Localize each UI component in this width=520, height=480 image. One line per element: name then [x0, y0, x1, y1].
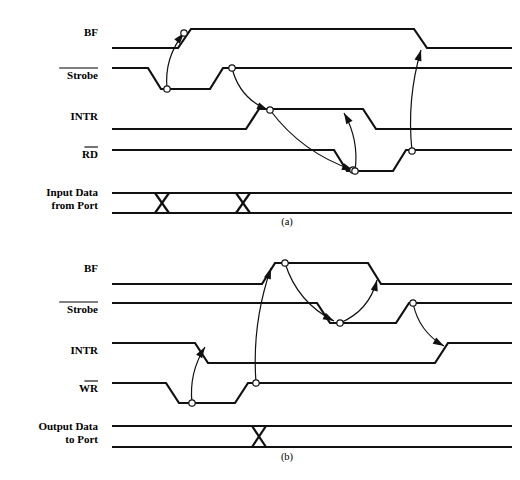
- causal-arrow-b-1: [253, 268, 271, 386]
- arrow-curve: [285, 263, 334, 321]
- edge-knob: [267, 107, 273, 113]
- signal-label-BF: BF: [84, 262, 98, 274]
- diagram-b: BFStrobeINTRWROutput Datato Port(b): [38, 260, 512, 463]
- edge-knob: [282, 260, 288, 266]
- causal-arrow-b-0: [189, 347, 205, 406]
- signal-label-InputData-line2: from Port: [51, 199, 98, 211]
- signal-label-Strobe: Strobe: [67, 303, 98, 315]
- causal-arrow-b-4: [410, 300, 444, 346]
- diagram-a: BFStrobeINTRRDInput Datafrom Port(a): [46, 26, 512, 228]
- waveform: [112, 68, 512, 89]
- arrow-curve: [413, 303, 444, 346]
- signal-label-WR: WR: [79, 382, 99, 394]
- signal-label-Strobe: Strobe: [67, 69, 98, 81]
- waveform: [112, 150, 512, 171]
- edge-knob: [337, 320, 343, 326]
- signal-label-OutputData-line2: to Port: [65, 433, 98, 445]
- arrow-head: [371, 280, 378, 292]
- edge-knob: [253, 380, 259, 386]
- edge-knob: [181, 30, 187, 36]
- signal-label-OutputData: Output Data: [38, 420, 98, 432]
- signal-label-InputData: Input Data: [46, 186, 98, 198]
- edge-knob: [352, 168, 358, 174]
- edge-knob: [409, 148, 415, 154]
- arrow-head: [344, 113, 353, 124]
- edge-knob: [410, 300, 416, 306]
- causal-arrow-b-3: [337, 280, 378, 326]
- timing-diagram-canvas: BFStrobeINTRRDInput Datafrom Port(a)BFSt…: [0, 0, 520, 480]
- arrow-curve: [255, 268, 271, 383]
- waveform: [112, 29, 512, 48]
- edge-knob: [189, 400, 195, 406]
- caption-a: (a): [281, 216, 293, 228]
- signal-b-OutputData: Output Datato Port: [38, 420, 512, 447]
- signal-a-RD: RD: [82, 147, 512, 171]
- signal-b-WR: WR: [79, 381, 512, 403]
- signal-a-INTR: INTR: [70, 109, 512, 129]
- arrow-curve: [340, 280, 377, 323]
- waveform: [112, 383, 512, 403]
- signal-b-Strobe: Strobe: [59, 302, 512, 323]
- waveform: [112, 263, 512, 284]
- causal-arrow-b-2: [282, 260, 334, 321]
- causal-arrow-a-4: [409, 50, 422, 154]
- arrow-curve: [411, 50, 421, 151]
- signal-a-BF: BF: [84, 26, 512, 48]
- figure-root: BFStrobeINTRRDInput Datafrom Port(a)BFSt…: [0, 0, 520, 480]
- signal-a-Strobe: Strobe: [59, 68, 512, 89]
- arrow-curve: [232, 68, 268, 110]
- signal-label-INTR: INTR: [70, 110, 99, 122]
- signal-b-BF: BF: [84, 262, 512, 284]
- arrow-head: [256, 102, 268, 110]
- causal-arrow-a-1: [229, 65, 268, 110]
- waveform: [112, 109, 512, 129]
- signal-label-RD: RD: [82, 148, 98, 160]
- edge-knob: [229, 65, 235, 71]
- signal-a-InputData: Input Datafrom Port: [46, 186, 512, 213]
- arrow-head: [414, 50, 421, 62]
- caption-b: (b): [281, 451, 294, 463]
- signal-b-INTR: INTR: [70, 343, 512, 363]
- edge-knob: [164, 86, 170, 92]
- signal-label-BF: BF: [84, 26, 98, 38]
- signal-label-INTR: INTR: [70, 344, 99, 356]
- waveform: [112, 343, 512, 363]
